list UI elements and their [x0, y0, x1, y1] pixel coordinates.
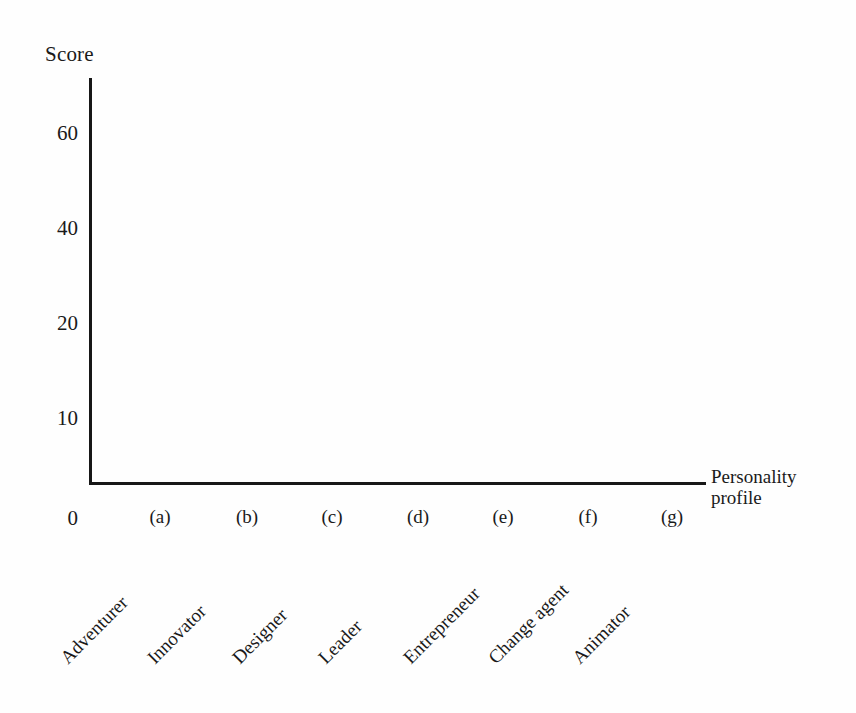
personality-profile-chart: Score Personality profile 604020100 (a)(… [0, 0, 856, 713]
x-category-label: Designer [229, 605, 291, 667]
x-category-label: Leader [315, 616, 366, 667]
x-category-label: Entrepreneur [400, 583, 484, 667]
x-category-label: Animator [569, 602, 634, 667]
plot-area [91, 78, 706, 482]
x-category-label: Adventurer [57, 592, 132, 667]
x-category-label: Change agent [485, 580, 572, 667]
x-category-label: Innovator [144, 601, 210, 667]
